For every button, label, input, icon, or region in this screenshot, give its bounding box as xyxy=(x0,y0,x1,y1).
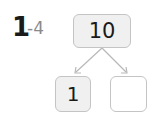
arrow-right-icon xyxy=(102,48,126,72)
arrow-left-icon xyxy=(76,48,102,72)
part-box-left: 1 xyxy=(55,76,91,112)
part-box-right-answer[interactable] xyxy=(110,76,147,112)
whole-box: 10 xyxy=(73,14,131,48)
